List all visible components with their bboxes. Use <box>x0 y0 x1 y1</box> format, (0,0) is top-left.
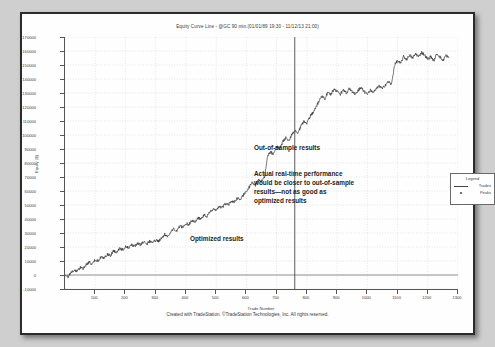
x-tick-label: 800 <box>302 295 309 300</box>
x-tick-label: 500 <box>212 295 219 300</box>
x-tick-label: 900 <box>333 295 340 300</box>
x-tick-mark <box>306 290 307 294</box>
footer-attribution: Created with TradeStation. ©TradeStation… <box>22 312 473 317</box>
x-tick-label: 100 <box>91 295 98 300</box>
x-tick-mark <box>215 290 216 294</box>
x-tick-mark <box>94 290 95 294</box>
annotation-out-of-sample-body: Actual real-time performance would be cl… <box>254 169 354 205</box>
x-axis-title: Trade Number <box>248 306 275 311</box>
x-tick-mark <box>124 290 125 294</box>
legend-title: Legend <box>451 176 494 181</box>
y-tick-label: 70000 <box>25 175 36 180</box>
equity-curve-line <box>65 51 449 278</box>
legend-item-label: Peaks <box>480 190 491 195</box>
y-tick-label: 120000 <box>22 105 36 110</box>
dot-icon <box>454 190 468 195</box>
chart-sheet: Equity Curve Line - @GC 90 min.(01/01/89… <box>22 14 473 333</box>
y-tick-label: 40000 <box>25 217 36 222</box>
x-tick-label: 300 <box>151 295 158 300</box>
y-tick-label: 140000 <box>22 77 36 82</box>
y-tick-label: 90000 <box>25 147 36 152</box>
y-tick-label: 170000 <box>22 35 36 40</box>
x-tick-label: 1200 <box>422 295 431 300</box>
y-tick-label: 10000 <box>25 259 36 264</box>
y-tick-label: 150000 <box>22 63 36 68</box>
x-tick-label: 1300 <box>452 295 461 300</box>
legend-item-label: Trades <box>479 183 491 188</box>
y-tick-label: 130000 <box>22 91 36 96</box>
x-tick-label: 400 <box>182 295 189 300</box>
x-tick-mark <box>366 290 367 294</box>
y-tick-label: 60000 <box>25 189 36 194</box>
y-tick-label: 110000 <box>23 119 36 124</box>
x-tick-mark <box>245 290 246 294</box>
x-tick-mark <box>155 290 156 294</box>
y-tick-label: 30000 <box>25 231 36 236</box>
x-tick-label: 1000 <box>362 295 371 300</box>
y-tick-label: 0 <box>34 273 36 278</box>
y-tick-label: 160000 <box>22 49 36 54</box>
plot-area <box>65 37 458 289</box>
x-tick-mark <box>185 290 186 294</box>
legend-item-trades: Trades <box>451 183 494 188</box>
x-tick-mark <box>336 290 337 294</box>
legend-item-peaks: Peaks <box>451 190 494 195</box>
y-tick-label: -10000 <box>23 287 36 292</box>
x-tick-mark <box>397 290 398 294</box>
y-tick-label: 50000 <box>25 203 36 208</box>
x-tick-label: 200 <box>121 295 128 300</box>
x-tick-mark <box>276 290 277 294</box>
chart-title: Equity Curve Line - @GC 90 min.(01/01/89… <box>22 24 473 29</box>
y-tick-label: 20000 <box>25 245 36 250</box>
line-icon <box>454 183 468 188</box>
paper-sheet: Equity Curve Line - @GC 90 min.(01/01/89… <box>20 12 475 335</box>
x-tick-mark <box>427 290 428 294</box>
scanned-page-background: Equity Curve Line - @GC 90 min.(01/01/89… <box>0 0 495 347</box>
x-tick-label: 1100 <box>392 295 401 300</box>
equity-curve-svg <box>65 37 458 289</box>
annotation-optimized-results: Optimized results <box>190 234 244 243</box>
x-tick-label: 600 <box>242 295 249 300</box>
y-tick-label: 80000 <box>25 161 36 166</box>
y-tick-label: 100000 <box>22 133 36 138</box>
chart-legend: Legend Trades Peaks <box>450 173 495 205</box>
x-tick-label: 700 <box>272 295 279 300</box>
plot-frame <box>64 37 458 290</box>
x-tick-mark <box>457 290 458 294</box>
annotation-out-of-sample-title: Out-of-sample results <box>254 143 320 152</box>
